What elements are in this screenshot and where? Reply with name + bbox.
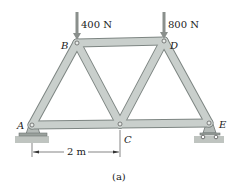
joint-label-b: B [60,40,68,51]
ground-support-e [194,136,224,143]
pin-b [75,41,79,45]
pin-c [118,122,122,126]
support-plate-a [19,133,47,136]
ground-support-a [15,136,49,143]
truss-diagram: 400 N 800 N B D A C E 2 m (a) [0,0,237,196]
pin-e [207,121,211,125]
dimension-label: 2 m [67,146,87,157]
joint-label-a: A [16,120,24,131]
load-label-d: 800 N [168,19,199,30]
dim-arrow-left [33,151,39,154]
pin-d [162,39,166,43]
dim-arrow-right [113,151,119,154]
load-label-b: 400 N [81,19,112,30]
pin-a [30,123,34,127]
roller-e-right [214,135,218,139]
joint-label-e: E [218,119,227,130]
joint-label-c: C [124,134,132,145]
figure-caption: (a) [112,171,126,182]
support-plate-e [200,133,220,135]
load-arrow-b [73,12,81,40]
roller-e-left [201,135,205,139]
load-arrow-d [160,12,168,39]
joint-label-d: D [169,40,178,51]
